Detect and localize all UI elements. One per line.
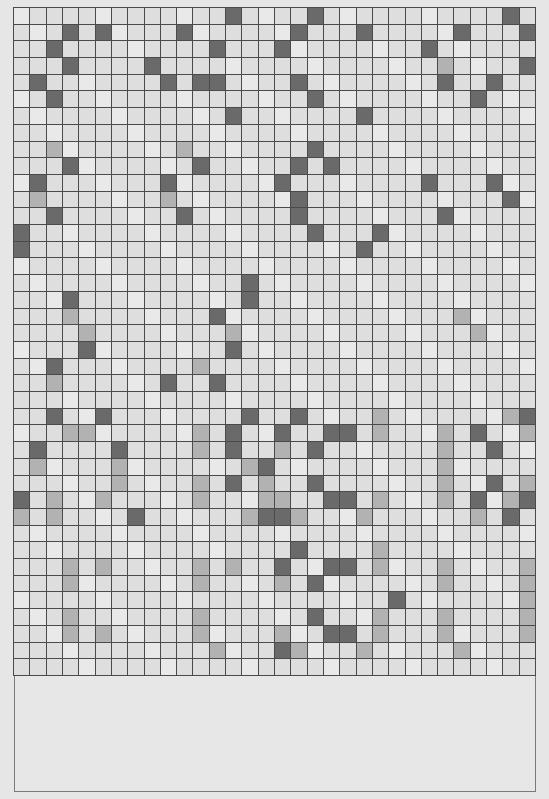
- grid-cell-r2-c27[interactable]: [438, 25, 453, 41]
- grid-cell-r6-c24[interactable]: [389, 91, 404, 107]
- grid-cell-r35-c24[interactable]: [389, 576, 404, 592]
- grid-cell-r6-c12[interactable]: [193, 91, 208, 107]
- grid-cell-r10-c9[interactable]: [145, 158, 160, 174]
- grid-cell-r33-c23[interactable]: [373, 542, 388, 558]
- grid-cell-r1-c24[interactable]: [389, 8, 404, 24]
- grid-cell-r26-c19[interactable]: [308, 425, 323, 441]
- grid-cell-r22-c14[interactable]: [226, 359, 241, 375]
- grid-cell-r6-c25[interactable]: [406, 91, 421, 107]
- grid-cell-r38-c23[interactable]: [373, 626, 388, 642]
- grid-cell-r26-c23[interactable]: [373, 425, 388, 441]
- grid-cell-r4-c14[interactable]: [226, 58, 241, 74]
- grid-cell-r22-c15[interactable]: [242, 359, 257, 375]
- grid-cell-r35-c14[interactable]: [226, 576, 241, 592]
- grid-cell-r31-c30[interactable]: [487, 509, 502, 525]
- grid-cell-r12-c23[interactable]: [373, 192, 388, 208]
- grid-cell-r35-c12[interactable]: [193, 576, 208, 592]
- grid-cell-r10-c3[interactable]: [47, 158, 62, 174]
- grid-cell-r40-c29[interactable]: [471, 659, 486, 675]
- grid-cell-r36-c9[interactable]: [145, 592, 160, 608]
- grid-cell-r33-c6[interactable]: [96, 542, 111, 558]
- grid-cell-r3-c2[interactable]: [30, 41, 45, 57]
- grid-cell-r11-c22[interactable]: [357, 175, 372, 191]
- grid-cell-r33-c1[interactable]: [14, 542, 29, 558]
- grid-cell-r21-c11[interactable]: [177, 342, 192, 358]
- grid-cell-r13-c26[interactable]: [422, 208, 437, 224]
- grid-cell-r17-c21[interactable]: [340, 275, 355, 291]
- grid-cell-r21-c6[interactable]: [96, 342, 111, 358]
- grid-cell-r3-c30[interactable]: [487, 41, 502, 57]
- grid-cell-r6-c6[interactable]: [96, 91, 111, 107]
- grid-cell-r28-c8[interactable]: [128, 459, 143, 475]
- grid-cell-r39-c32[interactable]: [520, 643, 535, 659]
- grid-cell-r9-c27[interactable]: [438, 142, 453, 158]
- grid-cell-r5-c17[interactable]: [275, 75, 290, 91]
- grid-cell-r13-c5[interactable]: [79, 208, 94, 224]
- grid-cell-r35-c4[interactable]: [63, 576, 78, 592]
- grid-cell-r20-c5[interactable]: [79, 325, 94, 341]
- grid-cell-r1-c23[interactable]: [373, 8, 388, 24]
- grid-cell-r18-c31[interactable]: [503, 292, 518, 308]
- grid-cell-r5-c25[interactable]: [406, 75, 421, 91]
- grid-cell-r18-c13[interactable]: [210, 292, 225, 308]
- grid-cell-r28-c27[interactable]: [438, 459, 453, 475]
- grid-cell-r10-c23[interactable]: [373, 158, 388, 174]
- grid-cell-r13-c12[interactable]: [193, 208, 208, 224]
- grid-cell-r16-c22[interactable]: [357, 258, 372, 274]
- grid-cell-r10-c32[interactable]: [520, 158, 535, 174]
- grid-cell-r21-c29[interactable]: [471, 342, 486, 358]
- grid-cell-r13-c27[interactable]: [438, 208, 453, 224]
- grid-cell-r17-c29[interactable]: [471, 275, 486, 291]
- grid-cell-r34-c16[interactable]: [259, 559, 274, 575]
- grid-cell-r25-c20[interactable]: [324, 409, 339, 425]
- grid-cell-r35-c11[interactable]: [177, 576, 192, 592]
- grid-cell-r16-c23[interactable]: [373, 258, 388, 274]
- grid-cell-r12-c4[interactable]: [63, 192, 78, 208]
- grid-cell-r22-c4[interactable]: [63, 359, 78, 375]
- grid-cell-r31-c6[interactable]: [96, 509, 111, 525]
- grid-cell-r15-c18[interactable]: [291, 242, 306, 258]
- grid-cell-r18-c29[interactable]: [471, 292, 486, 308]
- grid-cell-r37-c29[interactable]: [471, 609, 486, 625]
- grid-cell-r25-c32[interactable]: [520, 409, 535, 425]
- grid-cell-r12-c11[interactable]: [177, 192, 192, 208]
- grid-cell-r21-c24[interactable]: [389, 342, 404, 358]
- grid-cell-r8-c20[interactable]: [324, 125, 339, 141]
- grid-cell-r20-c2[interactable]: [30, 325, 45, 341]
- grid-cell-r9-c6[interactable]: [96, 142, 111, 158]
- grid-cell-r4-c16[interactable]: [259, 58, 274, 74]
- grid-cell-r29-c31[interactable]: [503, 476, 518, 492]
- grid-cell-r2-c3[interactable]: [47, 25, 62, 41]
- grid-cell-r17-c4[interactable]: [63, 275, 78, 291]
- grid-cell-r11-c7[interactable]: [112, 175, 127, 191]
- grid-cell-r9-c26[interactable]: [422, 142, 437, 158]
- grid-cell-r39-c7[interactable]: [112, 643, 127, 659]
- grid-cell-r10-c12[interactable]: [193, 158, 208, 174]
- grid-cell-r33-c28[interactable]: [454, 542, 469, 558]
- grid-cell-r4-c27[interactable]: [438, 58, 453, 74]
- grid-cell-r14-c4[interactable]: [63, 225, 78, 241]
- grid-cell-r7-c13[interactable]: [210, 108, 225, 124]
- grid-cell-r10-c31[interactable]: [503, 158, 518, 174]
- grid-cell-r4-c24[interactable]: [389, 58, 404, 74]
- grid-cell-r34-c28[interactable]: [454, 559, 469, 575]
- grid-cell-r39-c25[interactable]: [406, 643, 421, 659]
- grid-cell-r37-c18[interactable]: [291, 609, 306, 625]
- grid-cell-r36-c31[interactable]: [503, 592, 518, 608]
- grid-cell-r7-c4[interactable]: [63, 108, 78, 124]
- grid-cell-r2-c26[interactable]: [422, 25, 437, 41]
- grid-cell-r23-c6[interactable]: [96, 375, 111, 391]
- grid-cell-r24-c7[interactable]: [112, 392, 127, 408]
- grid-cell-r17-c20[interactable]: [324, 275, 339, 291]
- grid-cell-r3-c20[interactable]: [324, 41, 339, 57]
- grid-cell-r9-c11[interactable]: [177, 142, 192, 158]
- grid-cell-r12-c5[interactable]: [79, 192, 94, 208]
- grid-cell-r28-c16[interactable]: [259, 459, 274, 475]
- grid-cell-r35-c19[interactable]: [308, 576, 323, 592]
- grid-cell-r3-c12[interactable]: [193, 41, 208, 57]
- grid-cell-r3-c24[interactable]: [389, 41, 404, 57]
- grid-cell-r17-c2[interactable]: [30, 275, 45, 291]
- grid-cell-r26-c15[interactable]: [242, 425, 257, 441]
- grid-cell-r3-c4[interactable]: [63, 41, 78, 57]
- grid-cell-r24-c20[interactable]: [324, 392, 339, 408]
